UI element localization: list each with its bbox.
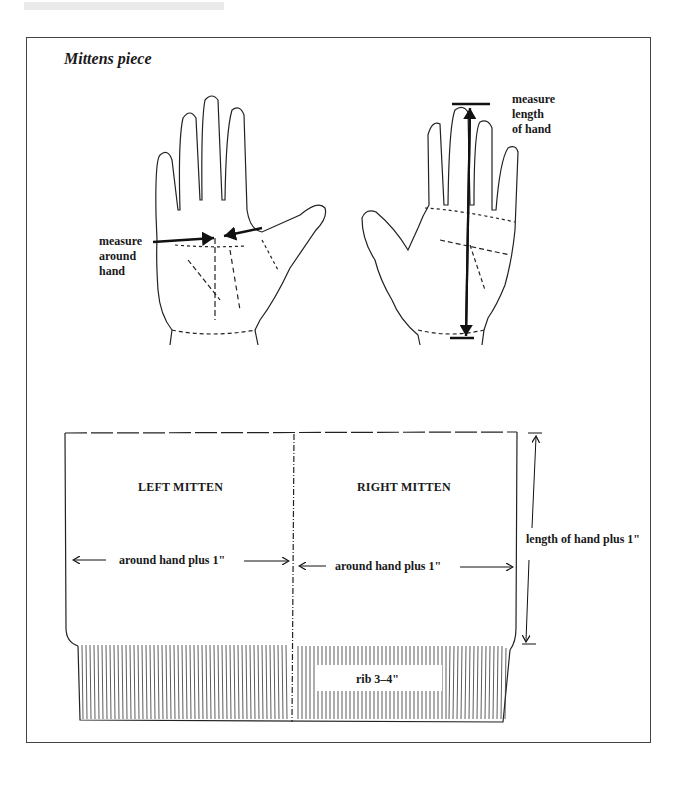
right-mitten-label: RIGHT MITTEN [357, 480, 451, 495]
length-hand-arrow [450, 104, 490, 338]
ribbing-lines [82, 645, 506, 719]
right-hand-drawing [362, 107, 518, 345]
right-width-label: around hand plus 1" [335, 559, 441, 574]
around-hand-arrows [153, 228, 262, 242]
length-hand-annotation: measure length of hand [512, 92, 555, 137]
left-hand-drawing [156, 96, 326, 345]
rib-label: rib 3–4" [356, 672, 399, 687]
height-label: length of hand plus 1" [526, 532, 640, 547]
left-mitten-label: LEFT MITTEN [138, 480, 223, 495]
around-hand-annotation: measure around hand [99, 234, 142, 279]
left-width-label: around hand plus 1" [119, 553, 225, 568]
